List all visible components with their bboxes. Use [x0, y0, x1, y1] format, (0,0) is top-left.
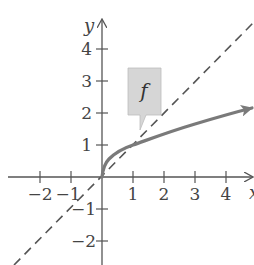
y-tick-label: 1	[81, 135, 92, 155]
y-tick-label: −1	[71, 199, 96, 219]
x-tick-label: 3	[190, 184, 201, 204]
chart-canvas: −2 −1 1 2 3 4 x 4 3 2 1 −1 −2 y f	[0, 0, 254, 265]
x-axis-label: x	[249, 182, 254, 203]
y-axis: 4 3 2 1 −1 −2 y	[71, 15, 108, 265]
x-axis: −2 −1 1 2 3 4 x	[8, 171, 254, 204]
x-tick-label: 1	[128, 184, 139, 204]
function-curve-f	[102, 108, 252, 177]
x-tick-label: 2	[159, 184, 170, 204]
y-tick-label: 4	[81, 39, 92, 59]
x-tick-label: 4	[221, 184, 232, 204]
x-tick-label: −2	[27, 184, 52, 204]
y-tick-label: −2	[71, 231, 96, 251]
y-axis-label: y	[83, 15, 95, 36]
y-tick-label: 3	[81, 71, 92, 91]
y-tick-label: 2	[81, 103, 92, 123]
